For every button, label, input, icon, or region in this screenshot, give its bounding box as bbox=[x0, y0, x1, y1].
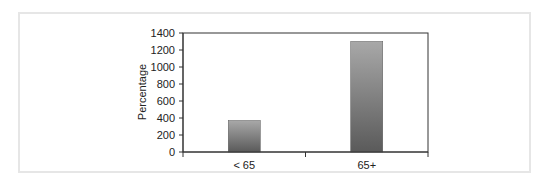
y-tick-label: 1400 bbox=[151, 27, 175, 39]
x-category-label: < 65 bbox=[233, 159, 255, 171]
bar-1 bbox=[228, 121, 260, 152]
x-category-label: 65+ bbox=[357, 159, 376, 171]
y-tick-label: 600 bbox=[157, 95, 175, 107]
y-tick-label: 1000 bbox=[151, 61, 175, 73]
y-tick-label: 0 bbox=[169, 146, 175, 158]
plot-border bbox=[183, 33, 428, 152]
y-tick-label: 200 bbox=[157, 129, 175, 141]
y-tick-label: 800 bbox=[157, 78, 175, 90]
y-axis-title: Percentage bbox=[136, 64, 148, 120]
bar-chart: 0200400600800100012001400< 6565+ Percent… bbox=[0, 0, 555, 186]
y-tick-label: 400 bbox=[157, 112, 175, 124]
bar-2 bbox=[351, 42, 383, 153]
plot-area: 0200400600800100012001400< 6565+ bbox=[151, 27, 428, 171]
y-tick-label: 1200 bbox=[151, 44, 175, 56]
